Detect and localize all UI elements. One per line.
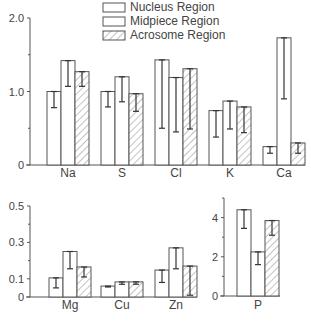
category-label-s: S <box>118 166 126 180</box>
legend-item-nucleus: Nucleus Region <box>103 0 215 14</box>
bar-group-cl <box>155 60 197 165</box>
legend-label-nucleus: Nucleus Region <box>130 0 215 14</box>
y-tick-label: 0.5 <box>9 200 24 212</box>
y-tick-label: 1.0 <box>9 86 24 98</box>
y-tick-label: 2.0 <box>9 12 24 24</box>
bar-group-p <box>237 210 279 296</box>
panel-phosphorus: 024P <box>212 198 280 312</box>
legend-label-acrosome: Acrosome Region <box>130 28 225 42</box>
bar-group-na <box>47 61 89 165</box>
bar-group-zn <box>155 248 197 297</box>
legend-item-midpiece: Midpiece Region <box>103 14 219 28</box>
legend-item-acrosome: Acrosome Region <box>103 28 225 42</box>
category-label-p: P <box>254 298 262 312</box>
legend: Nucleus Region Midpiece Region Acrosome … <box>103 0 225 42</box>
y-tick-label: 0 <box>212 290 218 302</box>
category-label-ca: Ca <box>276 166 292 180</box>
y-tick-label: 0 <box>18 291 24 303</box>
y-tick-label: 0.3 <box>9 236 24 248</box>
y-tick-label: 2 <box>212 251 218 263</box>
legend-swatch-midpiece <box>103 17 125 26</box>
bar-group-k <box>209 101 251 165</box>
legend-label-midpiece: Midpiece Region <box>130 14 219 28</box>
bar-group-s <box>101 77 143 165</box>
bar-nucleus-cu <box>101 286 115 297</box>
element-composition-chart: Nucleus Region Midpiece Region Acrosome … <box>0 0 311 322</box>
legend-swatch-acrosome <box>103 31 125 40</box>
bar-group-cu <box>101 282 143 297</box>
y-tick-label: 4 <box>212 212 218 224</box>
y-tick-label: 0.1 <box>9 273 24 285</box>
category-label-mg: Mg <box>62 298 79 312</box>
category-label-cl: Cl <box>170 166 181 180</box>
legend-swatch-nucleus <box>103 3 125 12</box>
category-label-zn: Zn <box>169 298 183 312</box>
y-tick-label: 0 <box>18 159 24 171</box>
category-label-cu: Cu <box>114 298 129 312</box>
bar-group-mg <box>49 252 91 298</box>
category-label-na: Na <box>60 166 76 180</box>
bar-group-ca <box>263 38 305 165</box>
panel-trace-elements: 00.10.30.5MgCuZn <box>9 200 197 312</box>
category-label-k: K <box>226 166 234 180</box>
